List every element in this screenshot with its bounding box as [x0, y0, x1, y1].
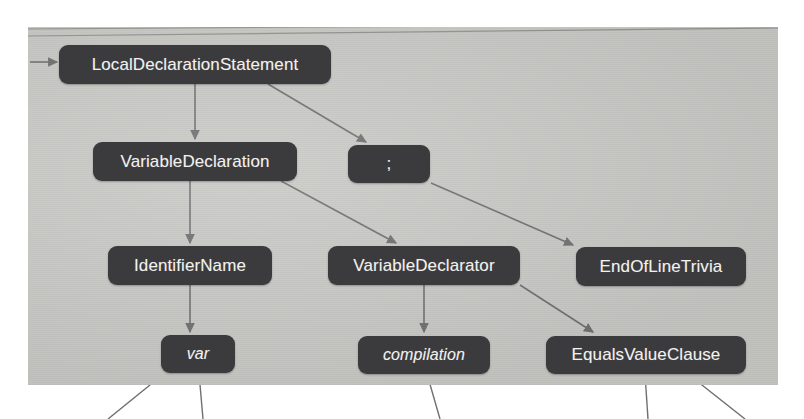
node-var-token[interactable]: var	[161, 335, 235, 373]
node-variable-declaration[interactable]: VariableDeclaration	[93, 142, 297, 181]
node-local-declaration-statement[interactable]: LocalDeclarationStatement	[59, 45, 331, 84]
node-compilation-token[interactable]: compilation	[358, 336, 490, 374]
node-semicolon-token[interactable]: ;	[348, 145, 430, 183]
node-variable-declarator[interactable]: VariableDeclarator	[328, 246, 520, 285]
node-label: VariableDeclarator	[353, 256, 494, 276]
node-label: VariableDeclaration	[121, 152, 270, 172]
node-label: EndOfLineTrivia	[600, 257, 723, 277]
node-label: IdentifierName	[134, 256, 246, 276]
scan-line-top-2	[28, 28, 778, 36]
screenshot-page: LocalDeclarationStatementVariableDeclara…	[0, 0, 804, 419]
node-label: ;	[387, 154, 392, 174]
node-identifier-name[interactable]: IdentifierName	[108, 246, 272, 285]
edge-lds-semicolon	[268, 84, 366, 142]
node-label: LocalDeclarationStatement	[92, 55, 299, 75]
node-label: var	[187, 345, 210, 363]
node-label: compilation	[383, 346, 465, 364]
edge-declarator-equals	[520, 285, 593, 332]
node-label: EqualsValueClause	[572, 345, 721, 365]
node-equals-value-clause[interactable]: EqualsValueClause	[546, 336, 746, 374]
node-end-of-line-trivia[interactable]: EndOfLineTrivia	[576, 247, 746, 286]
edge-vd-declarator	[281, 181, 396, 243]
edge-semicolon-eol	[431, 183, 573, 245]
diagram-canvas[interactable]: LocalDeclarationStatementVariableDeclara…	[28, 27, 778, 385]
